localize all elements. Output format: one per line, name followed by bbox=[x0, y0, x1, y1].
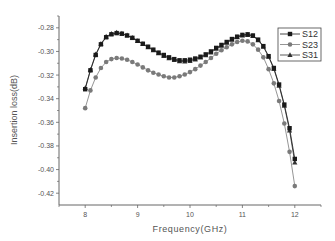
data-point-s12 bbox=[120, 32, 124, 36]
data-point-s23 bbox=[93, 75, 98, 80]
data-point-s23 bbox=[251, 42, 256, 47]
data-point-s23 bbox=[277, 99, 282, 104]
legend-label: S23 bbox=[302, 40, 318, 50]
data-point-s23 bbox=[172, 75, 177, 80]
data-point-s23 bbox=[198, 63, 203, 68]
series-layer bbox=[83, 30, 298, 189]
series-line-s31 bbox=[85, 33, 295, 163]
x-axis-label: Frequency(GHz) bbox=[153, 224, 228, 234]
data-point-s12 bbox=[235, 34, 239, 38]
legend-label: S31 bbox=[302, 50, 318, 60]
x-tick-label: 8 bbox=[83, 211, 87, 218]
x-tick-label: 9 bbox=[136, 211, 140, 218]
x-tick-label: 11 bbox=[239, 211, 246, 218]
x-tick-label: 12 bbox=[291, 211, 299, 218]
data-point-s12 bbox=[282, 102, 286, 106]
data-point-s23 bbox=[151, 70, 156, 75]
data-point-s12 bbox=[209, 49, 213, 53]
data-point-s23 bbox=[235, 40, 240, 45]
y-tick-label: -0.34 bbox=[38, 95, 54, 102]
data-point-s12 bbox=[240, 33, 244, 37]
y-axis-ticks: -0.28-0.30-0.32-0.34-0.36-0.38-0.40-0.42 bbox=[38, 16, 59, 197]
data-point-s23 bbox=[125, 57, 130, 62]
data-point-s12 bbox=[251, 33, 255, 37]
insertion-loss-chart: 89101112 -0.28-0.30-0.32-0.34-0.36-0.38-… bbox=[0, 0, 335, 241]
data-point-s12 bbox=[146, 45, 150, 49]
data-point-s23 bbox=[109, 57, 114, 62]
data-point-s12 bbox=[104, 35, 108, 39]
data-point-s12 bbox=[156, 50, 160, 54]
data-point-s23 bbox=[114, 56, 119, 61]
data-point-s23 bbox=[272, 81, 277, 86]
data-point-s23 bbox=[99, 66, 104, 71]
data-point-s12 bbox=[93, 53, 97, 57]
legend: S12S23S31 bbox=[278, 28, 321, 61]
data-point-s12 bbox=[214, 46, 218, 50]
data-point-s23 bbox=[141, 65, 146, 70]
data-point-s23 bbox=[104, 60, 109, 65]
data-point-s23 bbox=[261, 55, 266, 60]
data-point-s12 bbox=[277, 82, 281, 86]
y-tick-label: -0.38 bbox=[38, 142, 54, 149]
data-point-s12 bbox=[99, 42, 103, 46]
data-point-s23 bbox=[209, 56, 214, 61]
data-point-s12 bbox=[88, 68, 92, 72]
data-point-s23 bbox=[287, 150, 292, 155]
data-point-s12 bbox=[261, 44, 265, 48]
data-point-s23 bbox=[193, 67, 198, 72]
data-point-s12 bbox=[198, 55, 202, 59]
legend-marker-s23 bbox=[288, 42, 293, 47]
data-point-s12 bbox=[83, 87, 87, 91]
data-point-s12 bbox=[219, 43, 223, 47]
legend-marker-s12 bbox=[288, 32, 292, 36]
data-point-s23 bbox=[146, 68, 151, 73]
data-point-s23 bbox=[282, 121, 287, 126]
data-point-s23 bbox=[156, 72, 161, 77]
data-point-s12 bbox=[130, 36, 134, 40]
y-axis-label: Insertion loss(dB) bbox=[9, 75, 19, 145]
data-point-s12 bbox=[272, 66, 276, 70]
data-point-s23 bbox=[88, 88, 93, 93]
data-point-s12 bbox=[287, 126, 291, 130]
data-point-s12 bbox=[151, 47, 155, 51]
x-tick-label: 10 bbox=[186, 211, 194, 218]
data-point-s23 bbox=[83, 106, 88, 111]
data-point-s12 bbox=[141, 42, 145, 46]
data-point-s23 bbox=[203, 60, 208, 65]
data-point-s23 bbox=[224, 45, 229, 50]
y-tick-label: -0.32 bbox=[38, 72, 54, 79]
data-point-s12 bbox=[204, 52, 208, 56]
data-point-s12 bbox=[177, 58, 181, 62]
y-tick-label: -0.36 bbox=[38, 119, 54, 126]
data-point-s12 bbox=[114, 31, 118, 35]
data-point-s12 bbox=[266, 54, 270, 58]
data-point-s12 bbox=[125, 33, 129, 37]
data-point-s23 bbox=[130, 60, 135, 65]
legend-label: S12 bbox=[302, 29, 318, 39]
data-point-s12 bbox=[162, 53, 166, 57]
data-point-s23 bbox=[219, 48, 224, 53]
data-point-s23 bbox=[293, 184, 298, 189]
data-point-s12 bbox=[167, 55, 171, 59]
data-point-s23 bbox=[182, 72, 187, 77]
data-point-s23 bbox=[177, 74, 182, 79]
y-tick-label: -0.42 bbox=[38, 190, 54, 197]
series-line-s12 bbox=[85, 33, 295, 159]
data-point-s12 bbox=[135, 39, 139, 43]
data-point-s23 bbox=[162, 74, 167, 79]
data-point-s23 bbox=[266, 67, 271, 72]
data-point-s23 bbox=[240, 39, 245, 44]
data-point-s12 bbox=[183, 58, 187, 62]
data-point-s12 bbox=[224, 40, 228, 44]
data-point-s23 bbox=[230, 42, 235, 47]
y-tick-label: -0.28 bbox=[38, 24, 54, 31]
data-point-s23 bbox=[245, 39, 250, 44]
data-point-s12 bbox=[245, 32, 249, 36]
y-tick-label: -0.30 bbox=[38, 48, 54, 55]
data-point-s23 bbox=[188, 70, 193, 75]
data-point-s12 bbox=[109, 32, 113, 36]
data-point-s23 bbox=[135, 62, 140, 67]
data-point-s12 bbox=[188, 58, 192, 62]
y-tick-label: -0.40 bbox=[38, 166, 54, 173]
data-point-s23 bbox=[256, 47, 261, 52]
